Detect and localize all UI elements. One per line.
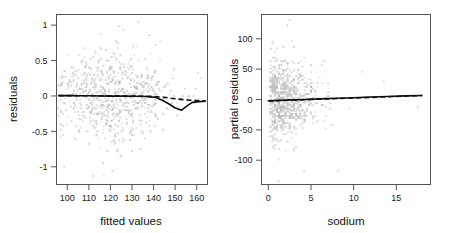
scatter-point	[132, 69, 134, 71]
scatter-point	[321, 82, 323, 84]
scatter-point	[280, 120, 282, 122]
scatter-point	[80, 74, 82, 76]
scatter-point	[272, 110, 274, 112]
scatter-point	[274, 68, 276, 70]
scatter-point	[304, 86, 306, 88]
scatter-point	[308, 102, 310, 104]
scatter-point	[111, 100, 113, 102]
scatter-point	[67, 83, 69, 85]
scatter-point	[73, 79, 75, 81]
scatter-point	[64, 70, 66, 72]
scatter-point	[89, 74, 91, 76]
scatter-point	[323, 104, 325, 106]
scatter-point	[304, 95, 306, 97]
scatter-point	[182, 95, 184, 97]
scatter-point	[103, 65, 105, 67]
scatter-point	[81, 120, 83, 122]
scatter-point	[295, 133, 297, 135]
scatter-point	[270, 126, 272, 128]
scatter-point	[119, 154, 121, 156]
scatter-point	[306, 84, 308, 86]
scatter-point	[280, 104, 282, 106]
scatter-point	[97, 97, 99, 99]
scatter-point	[118, 139, 120, 141]
scatter-point	[102, 86, 104, 88]
scatter-point	[146, 67, 148, 69]
scatter-point	[312, 115, 314, 117]
scatter-point	[147, 111, 149, 113]
scatter-point	[291, 88, 293, 90]
scatter-point	[314, 115, 316, 117]
scatter-point	[78, 88, 80, 90]
scatter-point	[94, 77, 96, 79]
scatter-point	[280, 73, 282, 75]
scatter-point	[86, 63, 88, 65]
scatter-point	[129, 139, 131, 141]
scatter-point	[289, 111, 291, 113]
scatter-point	[158, 81, 160, 83]
scatter-point	[274, 93, 276, 95]
scatter-point	[60, 123, 62, 125]
scatter-point	[131, 134, 133, 136]
scatter-point	[84, 81, 86, 83]
scatter-point	[195, 88, 197, 90]
left-scatter-points	[57, 21, 208, 177]
scatter-point	[151, 111, 153, 113]
scatter-point	[78, 54, 80, 56]
scatter-point	[274, 106, 276, 108]
scatter-point	[297, 62, 299, 64]
scatter-point	[117, 79, 119, 81]
scatter-point	[297, 73, 299, 75]
scatter-point	[133, 84, 135, 86]
scatter-point	[297, 77, 299, 79]
scatter-point	[285, 59, 287, 61]
scatter-point	[111, 127, 113, 129]
scatter-point	[278, 115, 280, 117]
scatter-point	[172, 77, 174, 79]
scatter-point	[100, 122, 102, 124]
scatter-point	[101, 72, 103, 74]
scatter-point	[125, 70, 127, 72]
scatter-point	[282, 102, 284, 104]
scatter-point	[270, 102, 272, 104]
scatter-point	[274, 77, 276, 79]
scatter-point	[108, 69, 110, 71]
scatter-point	[101, 70, 103, 72]
scatter-point	[278, 80, 280, 82]
scatter-point	[120, 63, 122, 65]
scatter-point	[289, 113, 291, 115]
scatter-point	[274, 80, 276, 82]
scatter-point	[295, 146, 297, 148]
scatter-point	[285, 84, 287, 86]
scatter-point	[113, 118, 115, 120]
scatter-point	[278, 77, 280, 79]
scatter-point	[278, 79, 280, 81]
scatter-point	[304, 113, 306, 115]
scatter-point	[108, 88, 110, 90]
scatter-point	[100, 58, 102, 60]
scatter-point	[299, 97, 301, 99]
scatter-point	[272, 57, 274, 59]
scatter-point	[62, 125, 64, 127]
scatter-point	[86, 86, 88, 88]
y-tick-label: 50	[242, 64, 252, 74]
scatter-point	[276, 48, 278, 50]
scatter-point	[291, 115, 293, 117]
scatter-point	[78, 115, 80, 117]
scatter-point	[63, 102, 65, 104]
scatter-point	[304, 100, 306, 102]
scatter-point	[94, 92, 96, 94]
scatter-point	[99, 79, 101, 81]
scatter-point	[293, 91, 295, 93]
scatter-point	[295, 108, 297, 110]
scatter-point	[272, 89, 274, 91]
scatter-point	[148, 125, 150, 127]
scatter-point	[144, 138, 146, 140]
scatter-point	[282, 89, 284, 91]
scatter-point	[280, 79, 282, 81]
scatter-point	[147, 107, 149, 109]
scatter-point	[317, 120, 319, 122]
scatter-point	[93, 127, 95, 129]
scatter-point	[122, 106, 124, 108]
scatter-point	[99, 111, 101, 113]
